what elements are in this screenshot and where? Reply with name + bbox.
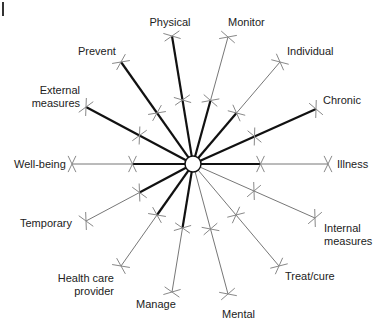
outer-cross-marker-icon bbox=[219, 288, 237, 300]
label-individual: Individual bbox=[287, 45, 333, 58]
label-temporary: Temporary bbox=[20, 217, 72, 230]
outer-cross-marker-icon bbox=[163, 287, 180, 297]
label-health-care-provider: Health care provider bbox=[52, 272, 114, 298]
label-physical: Physical bbox=[140, 16, 200, 29]
label-monitor: Monitor bbox=[228, 16, 265, 29]
outer-cross-marker-icon bbox=[79, 212, 94, 230]
outer-cross-marker-icon bbox=[79, 98, 94, 116]
label-treat-cure: Treat/cure bbox=[285, 270, 335, 283]
inner-cross-marker-icon bbox=[202, 95, 220, 107]
label-external-measures: External measures bbox=[24, 84, 80, 110]
label-manage: Manage bbox=[136, 298, 176, 311]
outer-cross-marker-icon bbox=[219, 31, 237, 43]
outer-cross-marker-icon bbox=[309, 100, 323, 118]
radial-diagram: PhysicalMonitorIndividualChronicIllnessI… bbox=[0, 0, 384, 329]
outer-cross-marker-icon bbox=[112, 258, 130, 274]
label-chronic: Chronic bbox=[323, 94, 361, 107]
inner-cross-marker-icon bbox=[227, 207, 244, 223]
inner-cross-marker-icon bbox=[148, 105, 166, 121]
spoke-mental bbox=[195, 172, 228, 294]
inner-cross-marker-icon bbox=[148, 207, 166, 223]
inner-cross-marker-icon bbox=[132, 127, 147, 145]
spoke-monitor bbox=[195, 37, 228, 156]
outer-cross-marker-icon bbox=[308, 209, 322, 227]
label-well-being: Well-being bbox=[14, 158, 66, 171]
inner-cross-marker-icon bbox=[132, 184, 147, 202]
label-illness: Illness bbox=[337, 158, 368, 171]
inner-cross-marker-icon bbox=[202, 223, 220, 235]
hub-circle bbox=[185, 156, 201, 172]
label-prevent: Prevent bbox=[78, 45, 116, 58]
label-internal-measures: Internal measures bbox=[324, 222, 372, 248]
inner-cross-marker-icon bbox=[248, 128, 262, 146]
inner-cross-marker-icon bbox=[247, 182, 261, 200]
label-mental: Mental bbox=[222, 308, 255, 321]
